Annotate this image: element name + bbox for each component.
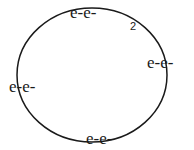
electron-pair-bottom: e-e- [86, 129, 113, 148]
shell-number-label: 2 [130, 20, 136, 32]
electron-shell-diagram: e-e- 2 e-e- e-e- e-e- [0, 0, 194, 150]
electron-pair-left: e-e- [9, 77, 36, 96]
electron-pair-right: e-e- [147, 53, 174, 72]
electron-pair-top: e-e- [70, 3, 97, 22]
electron-shell [17, 8, 167, 142]
